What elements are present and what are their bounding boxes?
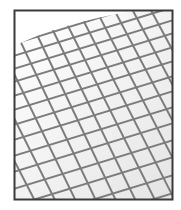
mesh-svg [0, 0, 181, 210]
wire-mesh-illustration [0, 0, 181, 210]
